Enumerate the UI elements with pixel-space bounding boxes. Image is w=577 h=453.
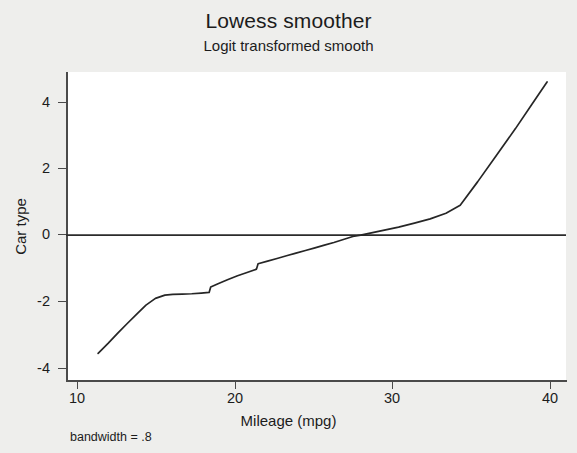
x-axis-title: Mileage (mpg) [0, 412, 577, 429]
chart-subtitle: Logit transformed smooth [0, 36, 577, 56]
x-tick-label: 30 [369, 390, 415, 406]
y-axis-title: Car type [12, 177, 29, 277]
y-tick-label: 4 [18, 95, 50, 109]
title-block: Lowess smoother Logit transformed smooth [0, 8, 577, 56]
y-axis-tick-0 [58, 234, 67, 235]
x-tick-label: 10 [54, 390, 100, 406]
y-tick-label: -4 [18, 361, 50, 375]
chart-figure: Lowess smoother Logit transformed smooth… [0, 0, 577, 453]
x-tick-label: 40 [527, 390, 573, 406]
bandwidth-note: bandwidth = .8 [70, 430, 152, 444]
x-axis-tick-30 [392, 381, 393, 389]
y-tick-label: 2 [18, 161, 50, 175]
y-axis-line [66, 72, 68, 381]
y-axis-tick-2 [58, 168, 67, 169]
x-axis-tick-10 [77, 381, 78, 389]
x-tick-label: 20 [212, 390, 258, 406]
y-axis-tick-4 [58, 102, 67, 103]
x-axis-line [66, 380, 567, 382]
y-tick-label: -2 [18, 294, 50, 308]
chart-title: Lowess smoother [0, 8, 577, 34]
x-axis-tick-40 [550, 381, 551, 389]
plot-area [67, 72, 566, 380]
y-axis-tick-minus2 [58, 301, 67, 302]
x-axis-tick-20 [235, 381, 236, 389]
y-axis-tick-minus4 [58, 368, 67, 369]
